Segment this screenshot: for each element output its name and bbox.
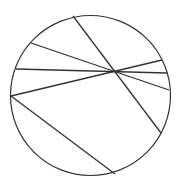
circle-chord-diagram: [0, 0, 181, 188]
chord-2-line: [31, 43, 169, 90]
chord-1-line: [73, 16, 161, 133]
chord-4-line: [11, 60, 162, 96]
chord-5-line: [11, 96, 115, 174]
chord-3-line: [16, 69, 167, 73]
chords-group: [11, 16, 169, 174]
